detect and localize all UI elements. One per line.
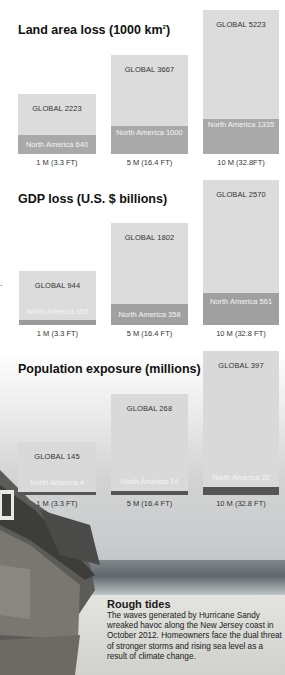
- ocean-waves: [80, 560, 285, 600]
- global-value-label: GLOBAL 1802: [111, 233, 188, 242]
- global-value-label: GLOBAL 268: [111, 404, 188, 413]
- global-value-label: GLOBAL 145: [18, 452, 96, 461]
- x-axis-label: 1 M (3.3 FT): [19, 329, 96, 338]
- x-axis-label: 5 M (16.4 FT): [111, 329, 188, 338]
- global-value-label: GLOBAL 5223: [203, 20, 279, 29]
- north-america-label: North America 14: [111, 477, 188, 486]
- north-america-segment: [111, 491, 188, 495]
- north-america-segment: [19, 320, 96, 325]
- photo-caption: Rough tides The waves generated by Hurri…: [107, 598, 285, 662]
- caption-title: Rough tides: [107, 598, 285, 611]
- chart-title: Land area loss (1000 km2): [18, 23, 170, 37]
- x-axis-label: 1 M (3.3 FT): [18, 499, 96, 508]
- global-value-label: GLOBAL 944: [19, 281, 96, 290]
- chart-population-exposure: Population exposure (millions) GLOBAL 14…: [0, 340, 285, 510]
- bar-1m: GLOBAL 2223 North America 640: [18, 94, 96, 154]
- north-america-label: North America 22: [203, 473, 279, 482]
- bar-5m: GLOBAL 3667 North America 1000: [111, 55, 188, 154]
- north-america-label: North America 4: [18, 478, 96, 487]
- north-america-segment: [18, 492, 96, 495]
- bar-5m: GLOBAL 1802 North America 358: [111, 223, 188, 325]
- x-axis-label: 5 M (16.4 FT): [111, 158, 188, 167]
- bar-10m: GLOBAL 2570 North America 561: [203, 180, 279, 325]
- bar-10m: GLOBAL 397 North America 22: [203, 351, 279, 495]
- x-axis-label: 10 M (32.8 FT): [203, 499, 279, 508]
- chart-gdp-loss: GDP loss (U.S. $ billions) GLOBAL 944 No…: [0, 170, 285, 335]
- north-america-label: North America 103: [19, 307, 96, 316]
- global-value-label: GLOBAL 3667: [111, 65, 188, 74]
- x-axis-label: 10 M (32.8 FT): [203, 329, 279, 338]
- chart-title-close: ): [166, 23, 170, 37]
- global-value-label: GLOBAL 2223: [18, 104, 96, 113]
- bar-1m: GLOBAL 145 North America 4: [18, 442, 96, 495]
- bar-5m: GLOBAL 268 North America 14: [111, 394, 188, 495]
- x-axis-label: 5 M (16.4 FT): [111, 499, 188, 508]
- north-america-segment: [203, 487, 279, 495]
- north-america-label: North America 1335: [203, 120, 279, 129]
- north-america-label: North America 1000: [111, 128, 188, 137]
- chart-title-text: Land area loss (1000 km: [18, 23, 163, 37]
- chart-title: Population exposure (millions): [18, 362, 201, 376]
- caption-body: The waves generated by Hurricane Sandy w…: [107, 611, 285, 662]
- north-america-label: North America 561: [203, 297, 279, 306]
- bar-10m: GLOBAL 5223 North America 1335: [203, 10, 279, 154]
- bar-1m: GLOBAL 944 North America 103: [19, 271, 96, 325]
- chart-land-area-loss: Land area loss (1000 km2) GLOBAL 2223 No…: [0, 0, 285, 165]
- global-value-label: GLOBAL 397: [203, 361, 279, 370]
- x-axis-label: 10 M (32.8FT): [203, 158, 279, 167]
- north-america-label: North America 358: [111, 310, 188, 319]
- global-value-label: GLOBAL 2570: [203, 190, 279, 199]
- x-axis-label: 1 M (3.3 FT): [18, 158, 96, 167]
- chart-title: GDP loss (U.S. $ billions): [18, 192, 167, 206]
- north-america-label: North America 640: [18, 140, 96, 149]
